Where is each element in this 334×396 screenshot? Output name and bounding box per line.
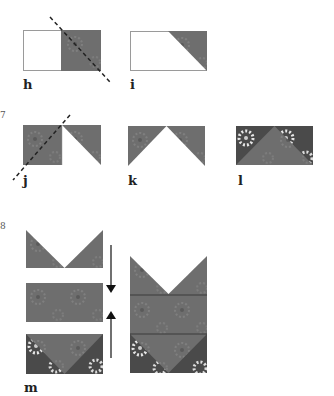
arrow-up-icon — [105, 310, 117, 358]
cut-line-j — [8, 110, 78, 185]
panel-k — [128, 126, 205, 166]
panel-l — [236, 126, 313, 165]
label-k: k — [128, 174, 137, 187]
label-l: l — [238, 174, 243, 187]
label-j: j — [23, 174, 28, 187]
arrow-down-icon — [105, 245, 117, 295]
panel-i — [130, 31, 207, 71]
step-marker-7: 7 — [0, 111, 6, 120]
panel-m-top-unit — [26, 230, 103, 268]
label-m: m — [24, 381, 38, 394]
panel-m-bottom-unit — [26, 334, 103, 374]
panel-m-middle-strip — [26, 283, 103, 322]
label-h: h — [23, 78, 32, 91]
cut-line-h — [45, 12, 115, 87]
label-i: i — [130, 78, 135, 91]
panel-m-assembled — [130, 256, 207, 373]
step-marker-8: 8 — [0, 222, 6, 231]
